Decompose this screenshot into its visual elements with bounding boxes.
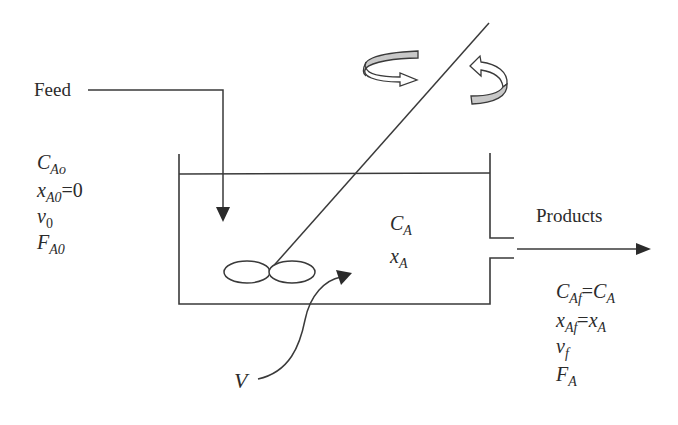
tank-var-symbol: x bbox=[390, 245, 399, 267]
tank-var-subscript: A bbox=[399, 256, 408, 271]
volume-label: V bbox=[234, 370, 247, 392]
feed-var-conversion: xA0=0 bbox=[37, 180, 83, 200]
rotation-arrow-clockwise-icon bbox=[363, 51, 418, 86]
tank-right-wall-upper bbox=[490, 153, 514, 238]
tank-vessel bbox=[179, 153, 514, 304]
product-var-concentration: CAf=CA bbox=[556, 281, 615, 301]
rotation-arrow-counterclockwise-icon bbox=[470, 56, 507, 104]
liquid-surface-line bbox=[179, 173, 490, 174]
product-var-subscript: Af bbox=[565, 320, 577, 335]
feed-var-symbol: C bbox=[37, 151, 50, 173]
product-var-symbol: C bbox=[556, 280, 569, 302]
feed-var-subscript: 0 bbox=[46, 216, 53, 231]
tank-var-symbol: C bbox=[390, 212, 403, 234]
impeller-icon bbox=[224, 261, 315, 283]
product-var-equals-symbol: x bbox=[589, 309, 598, 331]
product-var-subscript: Af bbox=[569, 291, 581, 306]
product-var-conversion: xAf=xA bbox=[556, 310, 606, 330]
tank-var-subscript: A bbox=[403, 223, 412, 238]
feed-var-symbol: x bbox=[37, 179, 46, 201]
products-arrow bbox=[517, 243, 651, 255]
tank-var-concentration: CA bbox=[390, 213, 412, 233]
feed-arrow bbox=[88, 90, 230, 222]
product-var-volumetric-flow: vf bbox=[556, 336, 569, 356]
product-var-symbol: v bbox=[556, 335, 565, 357]
feed-var-molar-flow: FA0 bbox=[37, 232, 65, 252]
feed-var-symbol: F bbox=[37, 231, 49, 253]
products-label: Products bbox=[536, 206, 603, 225]
feed-var-volumetric-flow: v0 bbox=[37, 206, 53, 226]
product-var-subscript: f bbox=[565, 346, 569, 361]
feed-var-subscript: Ao bbox=[50, 162, 66, 177]
tank-left-wall-and-bottom bbox=[179, 154, 514, 304]
feed-var-subscript: A0 bbox=[46, 190, 62, 205]
product-var-subscript: A bbox=[568, 374, 577, 389]
feed-var-subscript: A0 bbox=[49, 242, 65, 257]
product-var-symbol: F bbox=[556, 363, 568, 385]
tank-var-conversion: xA bbox=[390, 246, 407, 266]
volume-pointer-arrow bbox=[258, 270, 352, 379]
product-var-symbol: x bbox=[556, 309, 565, 331]
product-var-equals-subscript: A bbox=[598, 320, 607, 335]
product-var-equals-subscript: A bbox=[606, 291, 615, 306]
feed-var-concentration: CAo bbox=[37, 152, 66, 172]
product-var-molar-flow: FA bbox=[556, 364, 577, 384]
feed-label: Feed bbox=[34, 80, 71, 99]
feed-var-symbol: v bbox=[37, 205, 46, 227]
product-var-equals-symbol: C bbox=[593, 280, 606, 302]
feed-var-value: =0 bbox=[61, 179, 82, 201]
